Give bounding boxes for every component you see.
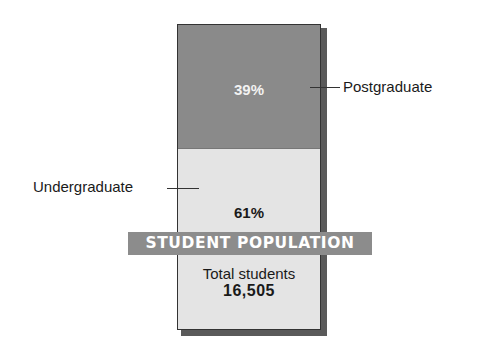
total-students-label: Total students: [177, 265, 321, 282]
postgraduate-percent: 39%: [178, 81, 320, 98]
chart-title-banner: STUDENT POPULATION: [128, 232, 372, 255]
total-students-value: 16,505: [177, 282, 321, 300]
postgraduate-label: Postgraduate: [343, 78, 432, 95]
postgraduate-leader-line: [310, 87, 340, 88]
undergraduate-leader-line: [167, 188, 199, 189]
total-students: Total students 16,505: [177, 265, 321, 300]
postgraduate-segment: 39%: [178, 25, 320, 149]
undergraduate-percent: 61%: [178, 204, 320, 221]
undergraduate-label: Undergraduate: [33, 178, 133, 195]
